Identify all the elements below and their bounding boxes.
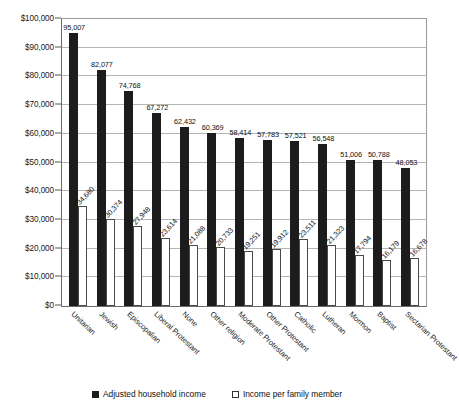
bar-income-per-family-member: 21,323: [327, 245, 336, 306]
bar-income-per-family-member: 16,678: [410, 258, 419, 306]
x-axis-category: Catholic: [286, 308, 314, 384]
bar-group: 67,27223,614: [147, 19, 175, 306]
bar-value-label: 57,521: [285, 131, 307, 140]
bar-adjusted-household-income: 60,369: [207, 133, 216, 306]
bar-value-label: 50,788: [368, 150, 390, 159]
bar-value-label: 82,077: [91, 60, 113, 69]
bar-value-label: 74,768: [119, 81, 141, 90]
bar-income-per-family-member: 30,374: [106, 219, 115, 306]
bar-income-per-family-member: 23,511: [299, 239, 308, 306]
bar-income-per-family-member: 19,912: [272, 249, 281, 306]
bar-adjusted-household-income: 82,077: [97, 70, 106, 306]
bar-value-label: 60,369: [202, 123, 224, 132]
y-axis-tick-label: $90,000: [25, 42, 54, 51]
y-axis-tick-label: $40,000: [25, 186, 54, 195]
bar-group: 74,76827,948: [119, 19, 147, 306]
x-axis: UnitarianJewishEpiscopalianLiberal Prote…: [61, 308, 427, 384]
legend-item: Income per family member: [232, 389, 342, 399]
x-axis-category: Episcopalian: [119, 308, 147, 384]
x-axis-category: Other religion: [202, 308, 230, 384]
y-axis-tick-label: $60,000: [25, 128, 54, 137]
bar-income-per-family-member: 34,680: [78, 206, 87, 306]
bar-group: 58,41419,251: [230, 19, 258, 306]
bar-income-per-family-member: 16,179: [382, 260, 391, 306]
y-axis-tick-label: $100,000: [21, 14, 54, 23]
bar-income-per-family-member: 23,614: [161, 238, 170, 306]
y-axis-tick-label: $0: [45, 301, 54, 310]
x-axis-category: Sectarian Protestant: [397, 308, 425, 384]
bar-adjusted-household-income: 57,783: [263, 140, 272, 306]
bar-adjusted-household-income: 56,548: [318, 144, 327, 306]
legend-item-label: Adjusted household income: [103, 389, 206, 399]
bar-group: 62,43221,088: [175, 19, 203, 306]
bar-adjusted-household-income: 50,788: [373, 160, 382, 306]
legend-item-label: Income per family member: [243, 389, 342, 399]
bar-value-label: 67,272: [146, 103, 168, 112]
y-axis: $100,000$90,000$80,000$70,000$60,000$50,…: [0, 0, 62, 414]
x-axis-category: Moderate Protestant: [230, 308, 258, 384]
bar-group: 95,00734,680: [64, 19, 92, 306]
plot-area: 95,00734,68082,07730,37474,76827,94867,2…: [61, 18, 427, 307]
bar-value-label: 51,006: [340, 150, 362, 159]
bar-adjusted-household-income: 57,521: [290, 141, 299, 306]
y-axis-tick-label: $50,000: [25, 157, 54, 166]
x-axis-category: Baptist: [369, 308, 397, 384]
y-axis-tick-label: $10,000: [25, 272, 54, 281]
bar-adjusted-household-income: 58,414: [235, 138, 244, 306]
bar-income-per-family-member: 27,948: [133, 226, 142, 306]
bar-adjusted-household-income: 51,006: [346, 160, 355, 306]
bar-group: 82,07730,374: [92, 19, 120, 306]
bars-layer: 95,00734,68082,07730,37474,76827,94867,2…: [62, 19, 426, 306]
x-axis-category: None: [174, 308, 202, 384]
x-axis-category: Jewish: [91, 308, 119, 384]
dark-square-icon: [92, 391, 99, 398]
bar-value-label: 57,783: [257, 130, 279, 139]
bar-group: 60,36920,733: [202, 19, 230, 306]
x-axis-category-label: Baptist: [376, 310, 399, 332]
bar-adjusted-household-income: 74,768: [124, 91, 133, 306]
bar-group: 57,52123,511: [286, 19, 314, 306]
bar-adjusted-household-income: 62,432: [180, 127, 189, 306]
bar-value-label: 56,548: [313, 134, 335, 143]
bar-group: 56,54821,323: [313, 19, 341, 306]
x-axis-category: Liberal Protestant: [147, 308, 175, 384]
bar-adjusted-household-income: 95,007: [69, 33, 78, 306]
x-axis-category: Unitarian: [63, 308, 91, 384]
x-axis-category: Other Protestant: [258, 308, 286, 384]
bar-value-label: 58,414: [229, 128, 251, 137]
x-axis-category: Lutheran: [314, 308, 342, 384]
light-square-icon: [232, 391, 239, 398]
bar-income-per-family-member: 19,251: [244, 251, 253, 306]
bar-value-label: 95,007: [63, 23, 85, 32]
bar-group: 51,00617,794: [341, 19, 369, 306]
bar-value-label: 48,053: [396, 158, 418, 167]
x-axis-category-label: Jewish: [97, 310, 120, 332]
bar-adjusted-household-income: 48,053: [401, 168, 410, 306]
bar-income-per-family-member: 20,733: [216, 247, 225, 307]
bar-value-label: 62,432: [174, 117, 196, 126]
y-axis-tick-label: $20,000: [25, 243, 54, 252]
x-axis-category-label: None: [181, 310, 200, 329]
bar-group: 57,78319,912: [258, 19, 286, 306]
bar-value-label: 16,678: [407, 237, 428, 259]
y-axis-tick-label: $80,000: [25, 71, 54, 80]
bar-group: 48,05316,678: [396, 19, 424, 306]
y-axis-tick-label: $70,000: [25, 100, 54, 109]
bar-income-per-family-member: 21,088: [189, 245, 198, 306]
x-axis-category-label: Sectarian Protestant: [403, 310, 459, 363]
legend-item: Adjusted household income: [92, 389, 206, 399]
x-axis-category: Mormon: [341, 308, 369, 384]
chart-legend: Adjusted household incomeIncome per fami…: [0, 389, 434, 399]
y-axis-tick-label: $30,000: [25, 214, 54, 223]
bar-income-per-family-member: 17,794: [355, 255, 364, 306]
bar-adjusted-household-income: 67,272: [152, 113, 161, 306]
bar-group: 50,78816,179: [369, 19, 397, 306]
